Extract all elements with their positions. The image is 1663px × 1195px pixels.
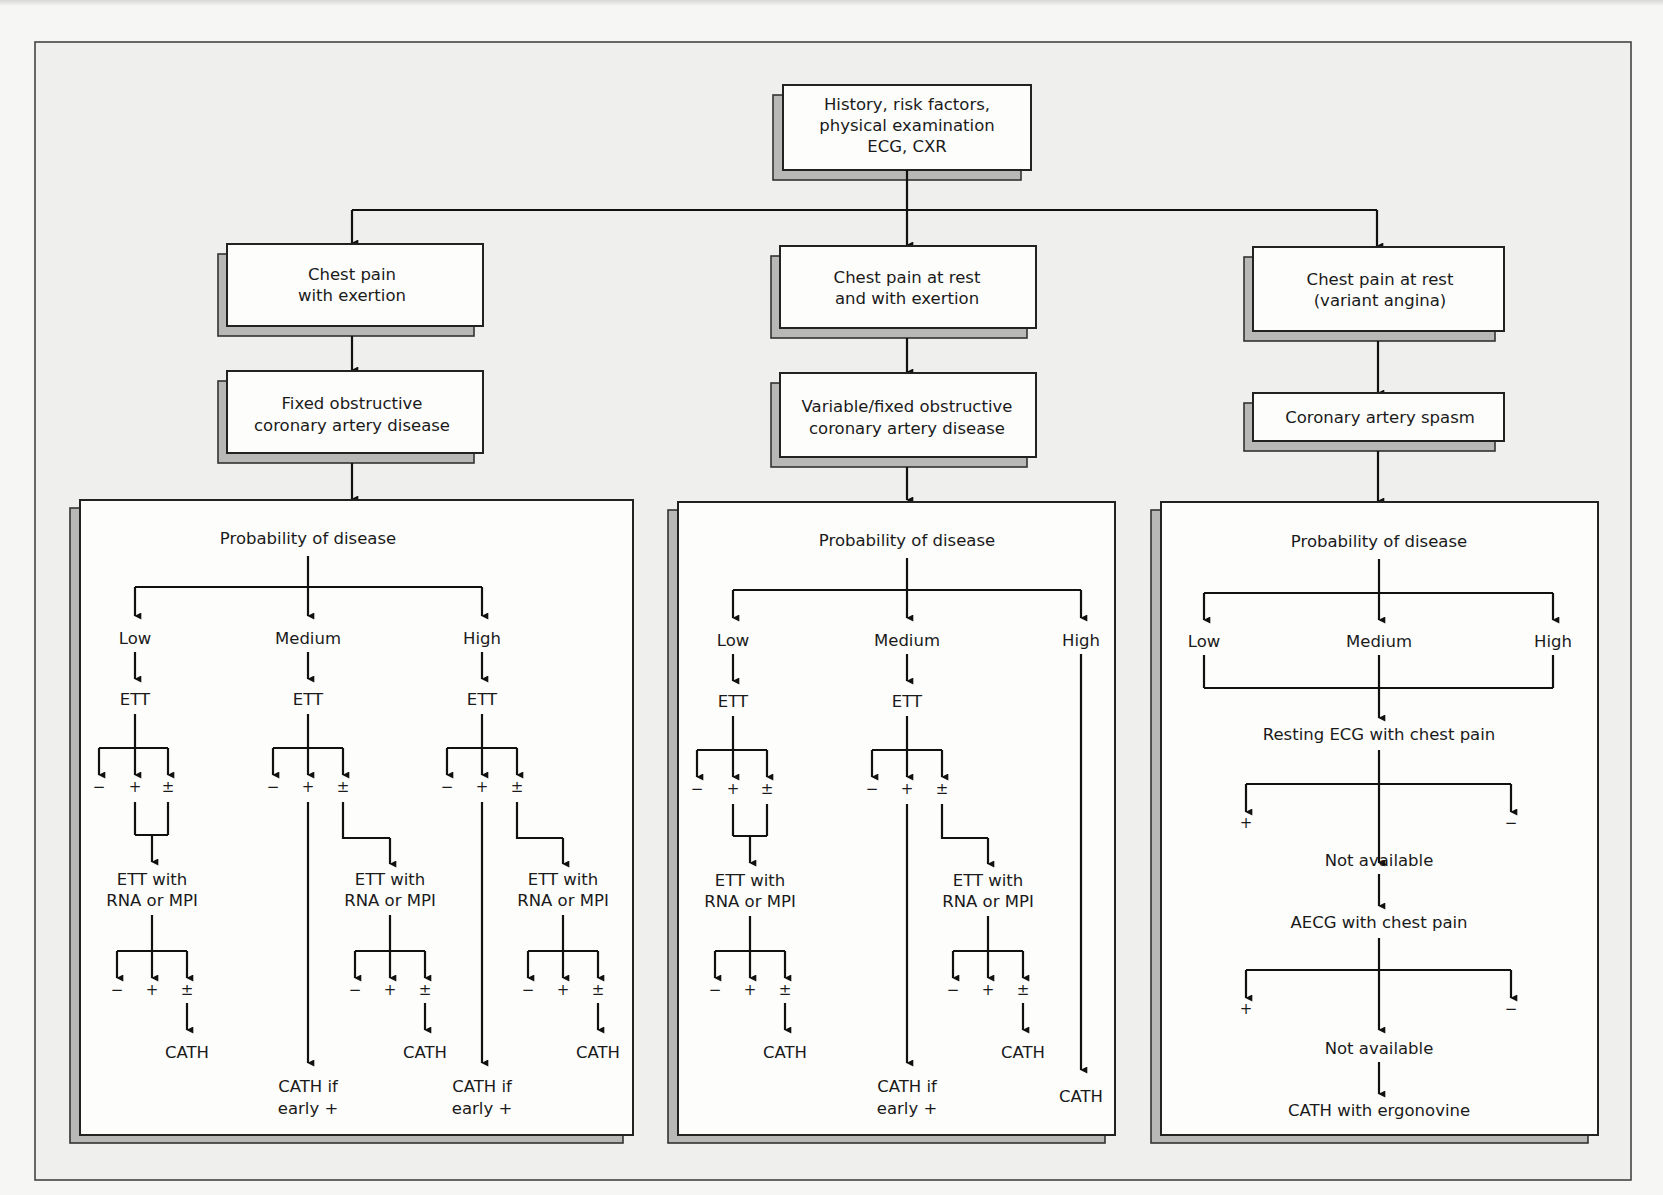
cath-label: CATH	[403, 1043, 447, 1062]
result-equivocal: ±	[779, 981, 792, 999]
not-available-label: Not available	[1325, 1039, 1434, 1058]
cath-if-line-2: early +	[877, 1099, 937, 1118]
cath-if-line-2: early +	[278, 1099, 338, 1118]
diagnosis-2-line-2: coronary artery disease	[809, 419, 1005, 438]
result-neg: −	[709, 981, 722, 999]
result-pos: +	[982, 981, 995, 999]
cath-label: CATH	[1059, 1087, 1103, 1106]
result-neg: −	[93, 778, 106, 796]
not-available-label: Not available	[1325, 851, 1434, 870]
result-neg: −	[349, 981, 362, 999]
ett-with-line-2: RNA or MPI	[942, 892, 1034, 911]
cath-if-line-1: CATH if	[278, 1077, 339, 1096]
flowchart-canvas: History, risk factors, physical examinat…	[0, 0, 1663, 1195]
level-medium: Medium	[1346, 632, 1412, 651]
ett-low: ETT	[120, 690, 151, 709]
presentation-1-line-2: with exertion	[298, 286, 406, 305]
level-medium: Medium	[874, 631, 940, 650]
result-pos: +	[146, 981, 159, 999]
result-pos: +	[901, 780, 914, 798]
cath-ergonovine-label: CATH with ergonovine	[1288, 1101, 1470, 1120]
diagnosis-3-line-1: Coronary artery spasm	[1285, 408, 1475, 427]
result-equivocal: ±	[419, 981, 432, 999]
result-pos: +	[384, 981, 397, 999]
result-neg: −	[691, 780, 704, 798]
diagnosis-1-line-1: Fixed obstructive	[282, 394, 423, 413]
cath-if-line-1: CATH if	[877, 1077, 938, 1096]
cath-if-line-2: early +	[452, 1099, 512, 1118]
ett-with-line-1: ETT with	[117, 870, 188, 889]
diagnosis-node-1: Fixed obstructive coronary artery diseas…	[218, 371, 483, 463]
result-equivocal: ±	[337, 778, 350, 796]
panel-3-title: Probability of disease	[1291, 532, 1467, 551]
ett-with-line-1: ETT with	[715, 871, 786, 890]
diagnosis-node-2: Variable/fixed obstructive coronary arte…	[771, 373, 1036, 467]
result-pos: +	[302, 778, 315, 796]
result-neg: −	[947, 981, 960, 999]
presentation-2-line-1: Chest pain at rest	[834, 268, 981, 287]
result-pos: +	[727, 780, 740, 798]
result-neg: −	[111, 981, 124, 999]
result-neg: −	[522, 981, 535, 999]
aecg-label: AECG with chest pain	[1290, 913, 1467, 932]
cath-label: CATH	[1001, 1043, 1045, 1062]
ett-with-line-1: ETT with	[528, 870, 599, 889]
result-equivocal: ±	[592, 981, 605, 999]
ett-with-line-2: RNA or MPI	[704, 892, 796, 911]
panel-2-title: Probability of disease	[819, 531, 995, 550]
ett-with-line-1: ETT with	[355, 870, 426, 889]
presentation-1-line-1: Chest pain	[308, 265, 396, 284]
level-high: High	[1062, 631, 1100, 650]
panel-3: Probability of disease Low Medium High R…	[1151, 502, 1598, 1143]
root-line-3: ECG, CXR	[867, 137, 947, 156]
diagnosis-node-3: Coronary artery spasm	[1244, 393, 1504, 451]
result-neg: −	[866, 780, 879, 798]
presentation-node-1: Chest pain with exertion	[218, 244, 483, 336]
result-pos: +	[744, 981, 757, 999]
level-low: Low	[119, 629, 152, 648]
cath-if-line-1: CATH if	[452, 1077, 513, 1096]
root-line-1: History, risk factors,	[824, 95, 990, 114]
presentation-3-line-2: (variant angina)	[1314, 291, 1447, 310]
cath-label: CATH	[576, 1043, 620, 1062]
result-pos: +	[129, 778, 142, 796]
result-equivocal: ±	[761, 780, 774, 798]
result-neg: −	[1505, 814, 1518, 832]
presentation-2-line-2: and with exertion	[835, 289, 979, 308]
result-equivocal: ±	[162, 778, 175, 796]
presentation-node-2: Chest pain at rest and with exertion	[771, 246, 1036, 338]
ett-with-line-2: RNA or MPI	[106, 891, 198, 910]
resting-ecg-label: Resting ECG with chest pain	[1263, 725, 1496, 744]
result-pos: +	[1240, 1000, 1253, 1018]
ett-medium: ETT	[293, 690, 324, 709]
diagnosis-2-line-1: Variable/fixed obstructive	[802, 397, 1013, 416]
presentation-node-3: Chest pain at rest (variant angina)	[1244, 247, 1504, 341]
result-equivocal: ±	[1017, 981, 1030, 999]
panel-1: Probability of disease Low Medium High E…	[70, 500, 633, 1143]
result-neg: −	[441, 778, 454, 796]
result-equivocal: ±	[936, 780, 949, 798]
level-high: High	[463, 629, 501, 648]
result-equivocal: ±	[511, 778, 524, 796]
result-pos: +	[476, 778, 489, 796]
diagnosis-1-line-2: coronary artery disease	[254, 416, 450, 435]
level-low: Low	[1188, 632, 1221, 651]
root-line-2: physical examination	[819, 116, 994, 135]
ett-with-line-2: RNA or MPI	[517, 891, 609, 910]
level-high: High	[1534, 632, 1572, 651]
panel-1-title: Probability of disease	[220, 529, 396, 548]
ett-with-line-2: RNA or MPI	[344, 891, 436, 910]
cath-label: CATH	[763, 1043, 807, 1062]
ett-with-line-1: ETT with	[953, 871, 1024, 890]
result-equivocal: ±	[181, 981, 194, 999]
result-pos: +	[557, 981, 570, 999]
ett-high: ETT	[467, 690, 498, 709]
presentation-3-line-1: Chest pain at rest	[1307, 270, 1454, 289]
ett-low: ETT	[718, 692, 749, 711]
root-node: History, risk factors, physical examinat…	[773, 85, 1031, 180]
result-neg: −	[1505, 1000, 1518, 1018]
panel-2: Probability of disease Low Medium High E…	[668, 502, 1115, 1143]
ett-medium: ETT	[892, 692, 923, 711]
cath-label: CATH	[165, 1043, 209, 1062]
level-medium: Medium	[275, 629, 341, 648]
